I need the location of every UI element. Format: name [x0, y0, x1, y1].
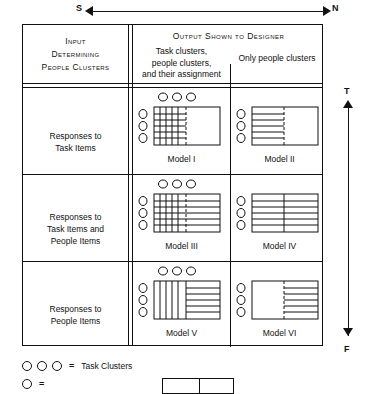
row-label-people-items: Responses to People Items — [23, 303, 128, 327]
three-circles-icon — [22, 361, 62, 371]
diagram-model-6 — [231, 262, 328, 328]
model-label-6: Model VI — [231, 328, 328, 338]
legend: = Task Clusters = — [22, 356, 352, 381]
diagram-model-3 — [133, 175, 230, 241]
row-label-task-items: Responses to Task Items — [23, 130, 128, 154]
model-matrix-table: Input Determining People Clusters Output… — [22, 24, 323, 346]
diagram-model-4 — [231, 175, 328, 241]
header-output-col1-line1: Task clusters, — [133, 46, 230, 58]
cell-model-4: Model IV — [231, 175, 328, 261]
header-separator-a — [23, 83, 322, 84]
header-output-col2: Only people clusters — [230, 53, 324, 65]
row-label-2-line1: Responses to — [23, 211, 128, 223]
model-label-2: Model II — [231, 154, 328, 164]
cell-model-1: Model I — [133, 88, 230, 174]
header-input-column: Input Determining People Clusters — [23, 25, 128, 83]
model-label-5: Model V — [133, 328, 230, 338]
arrow-up-icon — [343, 100, 353, 108]
axis-line-horizontal — [92, 11, 324, 12]
row-label-3-line1: Responses to — [23, 303, 128, 315]
legend-row-partial: = — [22, 379, 46, 389]
s-n-axis: S N — [22, 0, 344, 22]
diagram-model-5 — [133, 262, 230, 328]
diagram-model-2 — [231, 88, 328, 154]
diagram-model-1 — [133, 88, 230, 154]
header-input-line3: People Clusters — [42, 61, 110, 74]
header-input-line2: Determining — [42, 48, 110, 61]
cell-model-3: Model III — [133, 175, 230, 261]
column-separator-a — [128, 25, 129, 345]
arrow-right-icon — [323, 6, 331, 16]
cell-model-5: Model V — [133, 262, 230, 348]
legend-equals-1: = — [67, 361, 76, 371]
axis-line-vertical — [348, 108, 349, 336]
header-output-col1-line2: people clusters, — [133, 58, 230, 70]
cell-model-6: Model VI — [231, 262, 328, 348]
legend-row-task-clusters: = Task Clusters — [22, 361, 132, 371]
row-label-1-line1: Responses to — [23, 130, 128, 142]
header-output-column: Output Shown to Designer Task clusters, … — [133, 25, 324, 83]
header-output-title: Output Shown to Designer — [133, 31, 324, 41]
axis-label-n: N — [332, 3, 339, 13]
legend-box-divider — [199, 379, 200, 393]
axis-label-t: T — [344, 86, 350, 96]
cell-model-2: Model II — [231, 88, 328, 174]
row-label-task-and-people-items: Responses to Task Items and People Items — [23, 211, 128, 247]
model-label-1: Model I — [133, 154, 230, 164]
row-label-1-line2: Task Items — [23, 142, 128, 154]
legend-equals-2: = — [37, 379, 46, 389]
legend-text-1: Task Clusters — [81, 361, 132, 371]
header-input-line1: Input — [42, 35, 110, 48]
axis-label-s: S — [76, 3, 82, 13]
axis-label-f: F — [344, 344, 350, 354]
arrow-down-icon — [343, 328, 353, 336]
circle-icon — [22, 379, 32, 389]
t-f-axis: T F — [338, 86, 364, 358]
model-label-4: Model IV — [231, 241, 328, 251]
row-label-2-line2: Task Items and — [23, 223, 128, 235]
row-label-3-line2: People Items — [23, 315, 128, 327]
header-output-col1-line3: and their assignment — [133, 69, 230, 81]
legend-box-icon — [162, 378, 234, 394]
row-label-2-line3: People Items — [23, 235, 128, 247]
header-output-col1: Task clusters, people clusters, and thei… — [133, 46, 230, 81]
model-label-3: Model III — [133, 241, 230, 251]
